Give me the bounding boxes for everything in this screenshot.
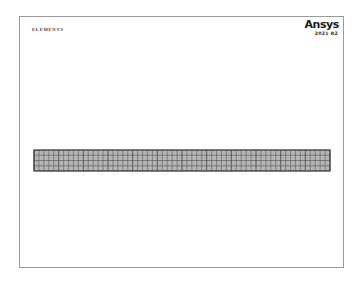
ansys-plot-sheet: ELEMENTS Ansys 2021 R2 bbox=[0, 0, 359, 287]
beam-element-mesh bbox=[20, 17, 345, 269]
graphics-frame: ELEMENTS Ansys 2021 R2 bbox=[19, 16, 344, 268]
